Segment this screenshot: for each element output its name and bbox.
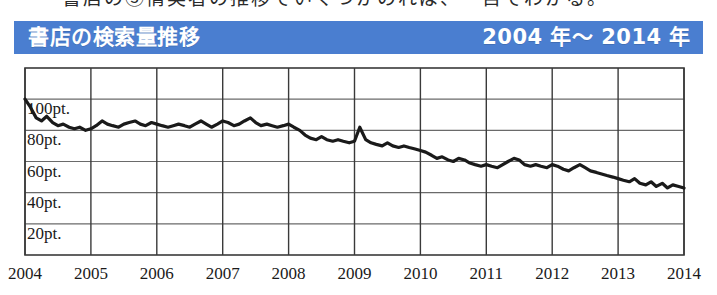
x-axis-tick-label: 2011 bbox=[470, 264, 503, 283]
x-axis-tick-label: 2009 bbox=[338, 264, 372, 283]
x-axis-tick-label: 2004 bbox=[8, 264, 43, 283]
x-axis-tick-label: 2008 bbox=[272, 264, 306, 283]
y-axis-tick-label: 60pt. bbox=[27, 162, 61, 181]
y-axis-tick-label: 20pt. bbox=[27, 224, 61, 243]
x-axis-tick-label: 2014 bbox=[667, 264, 702, 283]
x-axis-tick-label: 2006 bbox=[140, 264, 174, 283]
x-axis-tick-label: 2013 bbox=[601, 264, 635, 283]
x-axis-tick-label: 2005 bbox=[74, 264, 108, 283]
x-axis-tick-labels: 2004200520062007200820092010201120122013… bbox=[8, 264, 702, 283]
x-axis-tick-label: 2010 bbox=[403, 264, 437, 283]
y-axis-tick-label: 40pt. bbox=[27, 193, 61, 212]
line-chart: 100pt.80pt.60pt.40pt.20pt. 2004200520062… bbox=[0, 0, 717, 295]
x-axis-tick-label: 2007 bbox=[206, 264, 241, 283]
x-axis-tick-label: 2012 bbox=[535, 264, 569, 283]
chart-container: 100pt.80pt.60pt.40pt.20pt. 2004200520062… bbox=[0, 0, 717, 295]
y-axis-tick-label: 80pt. bbox=[27, 130, 61, 149]
